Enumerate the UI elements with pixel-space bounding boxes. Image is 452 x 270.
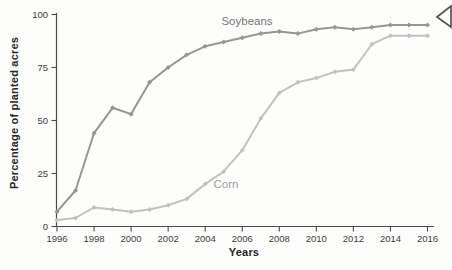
soybeans-markers xyxy=(55,23,431,215)
y-axis-title: Percentage of planted acres xyxy=(8,37,20,189)
corn-markers xyxy=(55,33,431,222)
page-corner-arrow-icon xyxy=(433,3,452,33)
x-tick-label: 2014 xyxy=(380,233,401,244)
soybeans-line xyxy=(57,25,428,212)
x-tick-label: 1996 xyxy=(46,233,67,244)
y-tick-label: 100 xyxy=(32,9,48,20)
x-tick-label: 1998 xyxy=(83,233,104,244)
axes xyxy=(57,13,435,227)
corn-series-label: Corn xyxy=(214,178,239,190)
axis-ticks xyxy=(52,15,428,232)
chart-plot-area: 0255075100199619982000200220042006200820… xyxy=(0,0,452,270)
y-tick-label: 75 xyxy=(37,62,48,73)
y-tick-label: 0 xyxy=(43,221,48,232)
corn-line xyxy=(57,36,428,220)
x-tick-label: 2004 xyxy=(195,233,216,244)
x-tick-label: 2002 xyxy=(158,233,179,244)
x-tick-label: 2006 xyxy=(232,233,253,244)
x-tick-label: 2010 xyxy=(306,233,327,244)
x-tick-label: 2000 xyxy=(121,233,142,244)
y-tick-label: 50 xyxy=(37,115,48,126)
x-tick-label: 2012 xyxy=(343,233,364,244)
data-series xyxy=(55,23,431,223)
x-tick-label: 2016 xyxy=(417,233,438,244)
x-axis-title: Years xyxy=(229,246,259,258)
y-tick-label: 25 xyxy=(37,168,48,179)
soybeans-series-label: Soybeans xyxy=(221,15,272,27)
axis-lines xyxy=(57,13,435,227)
ge-crop-adoption-chart: 0255075100199619982000200220042006200820… xyxy=(0,0,452,270)
x-tick-label: 2008 xyxy=(269,233,290,244)
